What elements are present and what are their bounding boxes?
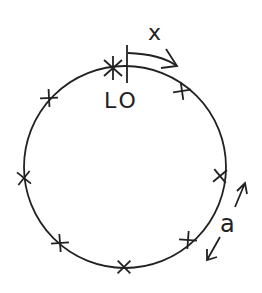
origin-label: LO — [104, 88, 139, 113]
site-x-mark — [40, 98, 58, 99]
spacing-arrow-up — [235, 183, 247, 207]
site-x-mark — [59, 234, 60, 252]
spacing-arrow-down — [207, 237, 220, 260]
lattice-ring-diagram: x LO a — [0, 0, 262, 293]
x-label: x — [148, 20, 161, 45]
spacing-label: a — [220, 210, 235, 238]
